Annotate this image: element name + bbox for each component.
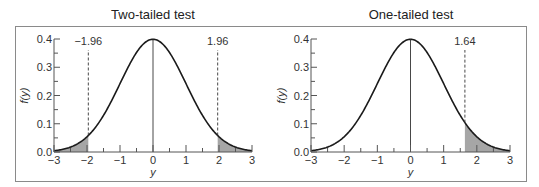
- x-tick-label: 0: [150, 154, 156, 166]
- y-tick-label: 0.4: [37, 33, 52, 45]
- y-axis-label: f(y): [18, 87, 30, 103]
- chart-two-tailed: −3−2−101230.00.10.20.30.4yf(y)−1.961.96: [18, 33, 255, 178]
- x-tick-label: 2: [474, 154, 480, 166]
- x-tick-label: 1: [441, 154, 447, 166]
- y-tick-label: 0.1: [294, 118, 309, 130]
- y-tick-label: 0.2: [37, 90, 52, 102]
- x-axis-label: y: [407, 166, 415, 178]
- x-tick-label: −1: [114, 154, 127, 166]
- x-tick-label: 3: [249, 154, 255, 166]
- x-tick-label: −1: [371, 154, 384, 166]
- y-axis-label: f(y): [275, 87, 287, 103]
- critical-value-label: −1.96: [74, 35, 102, 47]
- y-tick-label: 0.4: [294, 33, 309, 45]
- critical-value-label: 1.64: [454, 35, 475, 47]
- y-tick-label: 0.3: [294, 61, 309, 73]
- y-tick-label: 0.1: [37, 118, 52, 130]
- plots-canvas: −3−2−101230.00.10.20.30.4yf(y)−1.961.96−…: [0, 0, 539, 187]
- y-tick-label: 0.0: [294, 146, 309, 158]
- x-tick-label: 3: [507, 154, 513, 166]
- x-tick-label: −2: [338, 154, 351, 166]
- x-tick-label: 0: [407, 154, 413, 166]
- critical-value-label: 1.96: [207, 35, 228, 47]
- x-axis-label: y: [149, 166, 157, 178]
- x-tick-label: 2: [216, 154, 222, 166]
- x-tick-label: 1: [183, 154, 189, 166]
- y-tick-label: 0.2: [294, 90, 309, 102]
- shaded-tail-region: [465, 123, 510, 152]
- chart-one-tailed: −3−2−101230.00.10.20.30.4yf(y)1.64: [275, 33, 513, 178]
- y-tick-label: 0.0: [37, 146, 52, 158]
- y-tick-label: 0.3: [37, 61, 52, 73]
- x-tick-label: −2: [81, 154, 94, 166]
